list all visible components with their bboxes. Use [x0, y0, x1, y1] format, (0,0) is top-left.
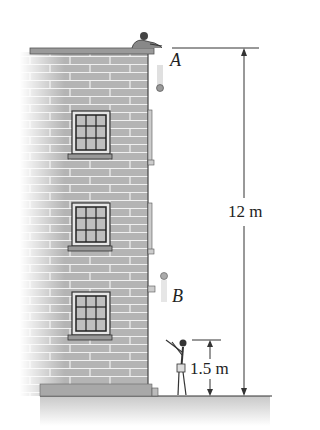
person-on-roof	[132, 32, 162, 48]
label-height-12m: 12 m	[227, 202, 263, 222]
window-top	[68, 111, 112, 159]
label-point-b: B	[172, 286, 183, 307]
ball-b	[161, 273, 168, 303]
person-catching	[166, 340, 187, 396]
window-bottom	[68, 292, 112, 340]
label-height-1-5m: 1.5 m	[189, 359, 230, 379]
label-point-a: A	[170, 50, 181, 71]
window-middle	[68, 203, 112, 251]
ball-a	[157, 65, 164, 92]
ground	[40, 396, 272, 426]
